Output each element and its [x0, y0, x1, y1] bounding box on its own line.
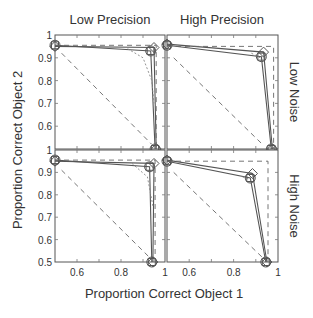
y-tick-label: 0.9: [38, 53, 52, 64]
x-axis-label: Proportion Correct Object 1: [85, 286, 243, 301]
y-tick-label: 0.9: [38, 167, 52, 178]
x-tick-label: 1: [275, 267, 281, 278]
x-tick-label: 1: [162, 267, 168, 278]
y-tick-label: 0.8: [38, 190, 52, 201]
chart-figure: 0.60.70.80.910.50.60.70.80.910.60.810.60…: [0, 0, 313, 318]
panel-4: 0.60.81: [162, 150, 281, 278]
row-title-low-noise: Low Noise: [287, 62, 302, 123]
x-tick-label: 0.6: [182, 267, 196, 278]
y-tick-label: 0.6: [38, 121, 52, 132]
panel-frame: [55, 35, 165, 149]
y-tick-label: 0.7: [38, 212, 52, 223]
row-title-high-noise: High Noise: [287, 174, 302, 238]
panel-1: 0.60.70.80.91: [38, 30, 165, 154]
y-axis-label: Proportion Correct Object 2: [10, 71, 25, 229]
x-tick-label: 0.6: [70, 267, 84, 278]
y-tick-label: 0.5: [38, 257, 52, 268]
y-tick-label: 0.8: [38, 76, 52, 87]
y-tick-label: 0.7: [38, 98, 52, 109]
column-title-high-precision: High Precision: [180, 12, 264, 27]
y-tick-label: 1: [46, 30, 52, 41]
y-tick-label: 0.6: [38, 235, 52, 246]
y-tick-label: 1: [46, 145, 52, 156]
panel-3: 0.50.60.70.80.910.60.81: [38, 145, 168, 278]
x-tick-label: 0.8: [227, 267, 241, 278]
x-tick-label: 0.8: [114, 267, 128, 278]
panel-2: [162, 35, 278, 154]
column-title-low-precision: Low Precision: [70, 12, 151, 27]
panel-frame: [167, 150, 278, 262]
